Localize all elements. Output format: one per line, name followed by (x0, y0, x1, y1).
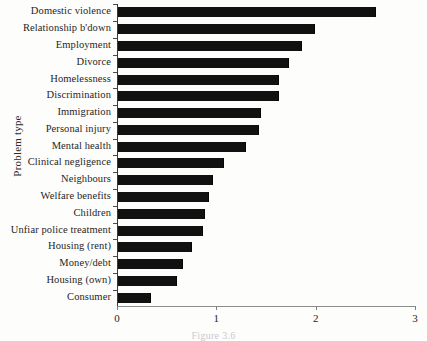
bar (118, 125, 259, 135)
bar (118, 259, 183, 269)
bar (118, 91, 279, 101)
category-label: Children (0, 207, 111, 218)
bar-fill (118, 259, 183, 269)
category-label: Money/debt (0, 257, 111, 268)
y-axis-tick (113, 273, 117, 274)
bar-fill (118, 125, 259, 135)
category-label: Housing (own) (0, 274, 111, 285)
bar (118, 192, 209, 202)
bar-fill (118, 242, 192, 252)
y-axis-tick (113, 290, 117, 291)
category-label: Employment (0, 39, 111, 50)
y-axis-tick (113, 139, 117, 140)
y-axis-tick (113, 172, 117, 173)
y-axis-tick (113, 256, 117, 257)
category-label: Immigration (0, 106, 111, 117)
bar (118, 7, 376, 17)
y-axis-tick (113, 38, 117, 39)
x-axis-tick-label: 0 (102, 312, 132, 324)
y-axis-tick (113, 88, 117, 89)
category-label: Homelessness (0, 73, 111, 84)
bar (118, 242, 192, 252)
category-label: Welfare benefits (0, 190, 111, 201)
bar (118, 209, 205, 219)
bar-fill (118, 293, 151, 303)
bar (118, 142, 246, 152)
bar-fill (118, 91, 279, 101)
y-axis-tick (113, 189, 117, 190)
category-label: Consumer (0, 291, 111, 302)
x-axis-tick-label: 3 (400, 312, 427, 324)
y-axis-tick (113, 223, 117, 224)
bar-fill (118, 175, 213, 185)
x-axis-tick-label: 1 (201, 312, 231, 324)
bar-fill (118, 226, 203, 236)
bar-fill (118, 192, 209, 202)
y-axis-tick (113, 21, 117, 22)
bar-fill (118, 75, 279, 85)
bar (118, 75, 279, 85)
bar-fill (118, 41, 302, 51)
bar (118, 276, 177, 286)
category-label: Discrimination (0, 89, 111, 100)
category-label: Relationship b'down (0, 22, 111, 33)
bar (118, 58, 289, 68)
category-label: Divorce (0, 56, 111, 67)
y-axis-tick (113, 55, 117, 56)
category-label: Neighbours (0, 173, 111, 184)
category-label: Domestic violence (0, 5, 111, 16)
y-axis-tick (113, 72, 117, 73)
bar-fill (118, 24, 315, 34)
figure-caption: Figure 3.6 (0, 330, 427, 341)
bar-fill (118, 142, 246, 152)
y-axis-tick (113, 122, 117, 123)
category-label: Mental health (0, 140, 111, 151)
category-label: Unfiar police treatment (0, 224, 111, 235)
bar (118, 24, 315, 34)
category-label: Clinical negligence (0, 156, 111, 167)
y-axis-tick (113, 206, 117, 207)
bar-fill (118, 58, 289, 68)
bar (118, 41, 302, 51)
bar-fill (118, 158, 224, 168)
bar-fill (118, 209, 205, 219)
x-axis-tick (216, 306, 217, 310)
bar-fill (118, 276, 177, 286)
bar (118, 226, 203, 236)
y-axis-tick (113, 4, 117, 5)
y-axis-tick (113, 155, 117, 156)
x-axis-tick (316, 306, 317, 310)
x-axis-line (117, 306, 415, 307)
bar (118, 158, 224, 168)
x-axis-tick-label: 2 (301, 312, 331, 324)
bar-fill (118, 7, 376, 17)
bar-fill (118, 108, 261, 118)
x-axis-tick (415, 306, 416, 310)
category-label: Housing (rent) (0, 240, 111, 251)
bar (118, 175, 213, 185)
y-axis-tick (113, 239, 117, 240)
plot-area: 0123 (117, 4, 415, 306)
x-axis-tick (117, 306, 118, 310)
y-axis-tick (113, 105, 117, 106)
bar (118, 293, 151, 303)
category-label: Personal injury (0, 123, 111, 134)
bar (118, 108, 261, 118)
